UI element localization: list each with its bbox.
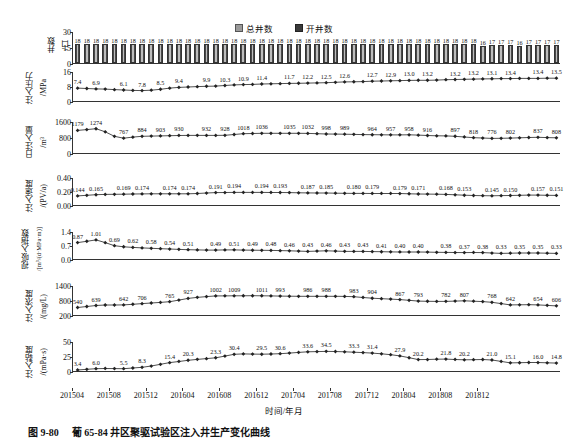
concentration-data-label: 782 [441,291,450,298]
daily_injection-data-point [131,135,135,139]
concentration-data-point [435,299,439,303]
viscosity-data-point [499,360,503,364]
injection_rate-ytick-label: 0.40 [57,174,71,183]
injection_rate-data-point [103,192,107,196]
viscosity-data-point [149,364,153,368]
daily_injection-data-point [462,135,466,139]
injection_rate-data-point [380,192,384,196]
absorption_index-data-label: 0.51 [229,240,240,247]
concentration-data-point [426,299,430,303]
daily_injection-data-point [398,133,402,137]
absorption_index-data-point [343,249,347,253]
wells-bar [121,44,127,63]
wells-bar-label: 18 [249,37,255,44]
pressure-data-point [140,89,144,93]
viscosity-data-point [315,350,319,354]
pressure-data-point [370,79,374,83]
concentration-data-label: 927 [183,288,192,295]
injection_rate-data-point [149,192,153,196]
pressure-data-point [177,85,181,89]
injection_rate-ytick-label: 0.20 [57,188,71,197]
viscosity-data-point [481,358,485,362]
daily_injection-data-label: 884 [137,126,146,133]
absorption_index-data-point [315,249,319,253]
viscosity-data-point [186,358,190,362]
pressure-data-label: 11.4 [256,74,267,81]
wells-bar-label: 18 [203,37,209,44]
wells-bar [84,44,90,63]
injection_rate-data-label: 0.179 [393,184,407,191]
injection_rate-data-point [536,193,540,197]
daily_injection-data-label: 837 [533,127,542,134]
wells-bar-label: 17 [526,38,532,45]
injection_rate-data-point [462,193,466,197]
pressure-data-point [536,76,540,80]
absorption_index-data-label: 0.48 [266,240,277,247]
daily_injection-data-point [389,133,393,137]
absorption_index-data-label: 0.54 [164,239,175,246]
wells-bar [323,44,329,63]
absorption_index-data-point [186,248,190,252]
absorption_index-data-label: 0.69 [109,236,120,243]
viscosity-data-label: 29.5 [256,344,267,351]
viscosity-data-label: 33.3 [348,342,359,349]
concentration-axis-unit-text: /(mg/L) [40,294,48,319]
viscosity-data-label: 23.3 [210,348,221,355]
pressure-data-label: 13.2 [422,70,433,77]
pressure-data-label: 12.5 [321,73,332,80]
wells-bar [277,44,283,63]
concentration-data-point [287,294,291,298]
wells-bar-label: 18 [259,37,265,44]
pressure-data-point [315,81,319,85]
daily_injection-data-point [407,133,411,137]
injection_rate-data-point [122,192,126,196]
viscosity-data-point [472,358,476,362]
pressure-data-point [426,78,430,82]
injection_rate-data-label: 0.165 [89,185,103,192]
concentration-data-point [508,303,512,307]
injection_rate-data-point [324,191,328,195]
wells-bar-label: 17 [498,38,504,45]
concentration-data-label: 654 [533,295,542,302]
concentration-data-label: 768 [487,292,496,299]
pressure-data-point [94,87,98,91]
pressure-ytick-mark [70,102,73,103]
viscosity-data-label: 21.8 [440,349,451,356]
concentration-axis-title-name: 注入浓度 [26,290,34,322]
absorption_index-data-point [159,247,163,251]
wells-bar [425,44,431,63]
wells-bar [443,44,449,63]
injection_rate-data-point [168,192,172,196]
concentration-data-label: 642 [119,295,128,302]
viscosity-data-label: 20.2 [413,350,424,357]
wells-bar [333,44,339,63]
viscosity-data-point [287,351,291,355]
viscosity-data-point [490,358,494,362]
pressure-data-point [287,82,291,86]
wells-bar-label: 18 [102,37,108,44]
absorption_index-data-label: 0.51 [183,240,194,247]
absorption_index-data-point [416,250,420,254]
pressure-data-point [453,78,457,82]
wells-bar-label: 18 [139,37,145,44]
concentration-data-point [370,296,374,300]
viscosity-data-point [85,367,89,371]
daily_injection-data-point [518,136,522,140]
wells-bar-label: 18 [286,37,292,44]
daily_injection-data-label: 930 [174,125,183,132]
daily_injection-data-point [527,136,531,140]
pressure-axis-unit-text: /MPa [40,79,48,96]
daily_injection-data-label: 998 [322,124,331,131]
absorption_index-data-label: 0.35 [514,243,525,250]
concentration-data-label: 986 [303,286,312,293]
wells-bar-label: 16 [516,39,522,46]
injection_rate-data-point [113,192,117,196]
daily_injection-data-point [103,130,107,134]
injection_rate-data-point [140,192,144,196]
concentration-data-point [131,302,135,306]
wells-bar [167,44,173,63]
injection_rate-ytick-label: 0.00 [57,202,71,211]
pressure-data-point [76,86,80,90]
injection_rate-data-label: 0.187 [301,183,315,190]
absorption_index-data-label: 0.40 [394,242,405,249]
